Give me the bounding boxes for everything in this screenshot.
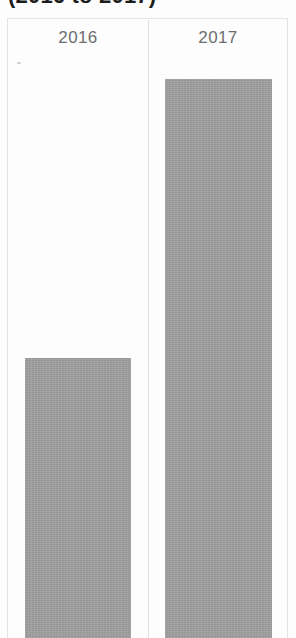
chart-title: (2016 to 2017) [8, 0, 156, 9]
scan-artifact-speck [17, 62, 21, 64]
category-divider [148, 20, 149, 638]
chart-frame [7, 18, 288, 638]
scanned-page: (2016 to 2017) 2016 2017 [0, 0, 296, 638]
category-label-2016: 2016 [18, 28, 138, 48]
chart-title-clipped: (2016 to 2017) [0, 0, 296, 14]
category-label-2017: 2017 [158, 28, 278, 48]
